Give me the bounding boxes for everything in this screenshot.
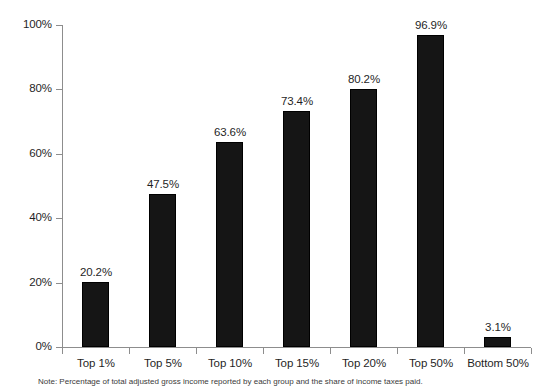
bar-value-label: 96.9% — [391, 19, 471, 31]
y-axis-tick: 100% — [0, 25, 62, 26]
y-axis-tick: 20% — [0, 283, 62, 284]
x-axis-tick-mark — [263, 348, 264, 354]
bar — [149, 194, 176, 347]
x-axis-tick-mark — [62, 348, 63, 354]
y-axis-tick-label: 0% — [4, 341, 52, 353]
y-axis-tick-label: 40% — [4, 212, 52, 224]
bar-value-label: 47.5% — [123, 178, 203, 190]
y-axis-tick: 60% — [0, 154, 62, 155]
bar-value-label: 20.2% — [56, 266, 136, 278]
bar — [484, 337, 511, 347]
bar-value-label: 63.6% — [190, 126, 270, 138]
x-axis-line — [62, 347, 531, 348]
x-axis-tick-mark — [330, 348, 331, 354]
bar — [283, 111, 310, 347]
y-axis-tick-label: 60% — [4, 148, 52, 160]
x-axis-tick-mark — [464, 348, 465, 354]
chart-footnote: Note: Percentage of total adjusted gross… — [38, 377, 533, 386]
bar — [216, 142, 243, 347]
bar-value-label: 80.2% — [324, 73, 404, 85]
x-axis-category-label: Bottom 50% — [453, 357, 541, 369]
y-axis-tick: 80% — [0, 89, 62, 90]
x-axis-tick-mark — [129, 348, 130, 354]
bar-value-label: 3.1% — [458, 321, 538, 333]
x-axis-tick-mark — [531, 348, 532, 354]
y-axis-tick-label: 100% — [4, 19, 52, 31]
y-axis-tick: 0% — [0, 347, 62, 348]
bar — [82, 282, 109, 347]
x-axis-tick-mark — [196, 348, 197, 354]
y-axis-tick-label: 20% — [4, 277, 52, 289]
y-axis-line — [62, 25, 63, 348]
y-axis-tick-label: 80% — [4, 83, 52, 95]
y-axis-tick: 40% — [0, 218, 62, 219]
bar — [350, 89, 377, 347]
bar-value-label: 73.4% — [257, 95, 337, 107]
bar — [417, 35, 444, 347]
x-axis-tick-mark — [397, 348, 398, 354]
